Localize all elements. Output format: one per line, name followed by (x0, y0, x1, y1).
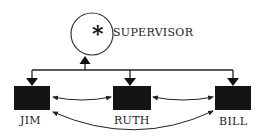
supervisor-diagram: * SUPERVISOR JIM RUTH BILL (0, 0, 263, 138)
arrow-up-icon (80, 56, 91, 64)
bill-node (215, 86, 251, 110)
supervisor-label: SUPERVISOR (113, 26, 193, 39)
asterisk-icon: * (92, 20, 104, 46)
ruth-bill-arrow (153, 97, 213, 100)
jim-node (14, 86, 50, 110)
arrow-down-icon (227, 78, 239, 86)
jim-ruth-arrow (53, 97, 111, 100)
arrow-down-icon (124, 78, 136, 86)
bill-label: BILL (219, 115, 247, 128)
jim-label: JIM (20, 114, 41, 127)
arrow-down-icon (26, 78, 38, 86)
ruth-label: RUTH (114, 114, 150, 127)
ruth-node (113, 86, 151, 110)
